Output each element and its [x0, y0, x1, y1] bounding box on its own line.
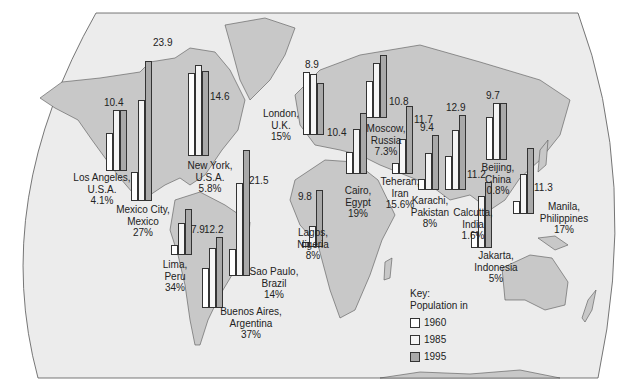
value-label-1995: 21.5: [249, 176, 268, 186]
bar-1960: [303, 72, 310, 135]
city-country: India: [446, 219, 500, 231]
city-label-calcutta: Calcutta, India 1.6%: [446, 207, 500, 242]
city-name: Lagos,: [290, 227, 336, 239]
city-label-manila: Manila, Philippines 17%: [532, 201, 596, 236]
bar-1995: [459, 115, 466, 190]
bar-1985: [195, 65, 202, 156]
city-pct: 7.3%: [360, 146, 412, 158]
city-name: New York,: [180, 160, 240, 172]
bar-1985: [425, 153, 432, 190]
city-country: Peru: [155, 271, 195, 283]
city-name: Manila,: [532, 201, 596, 213]
bar-1960: [513, 201, 520, 214]
bar-1995: [432, 135, 439, 190]
value-label-1995: 10.4: [327, 128, 346, 138]
city-pct: 27%: [108, 227, 178, 239]
bar-1985: [209, 248, 216, 308]
city-pct: 5.8%: [180, 183, 240, 195]
swatch-1985: [410, 335, 420, 345]
bar-1985: [178, 223, 185, 255]
city-name: Cairo,: [338, 185, 378, 197]
value-label-1995: 8.9: [305, 60, 319, 70]
city-pct: 15%: [260, 131, 302, 143]
bar-group: [202, 237, 223, 308]
city-country: Brazil: [244, 278, 304, 290]
city-name: Sao Paulo,: [244, 266, 304, 278]
bar-1960: [392, 163, 399, 174]
legend-year: 1985: [424, 334, 446, 346]
city-name: Mexico City,: [108, 204, 178, 216]
value-label-1995: 11.3: [534, 183, 553, 193]
city-pct: 14%: [244, 289, 304, 301]
city-label-new-york: New York, U.S.A. 5.8%: [180, 160, 240, 195]
city-name: Moscow,: [360, 123, 412, 135]
bar-1985: [373, 63, 380, 118]
city-country: Nigeria: [290, 239, 336, 251]
city-country: Philippines: [532, 213, 596, 225]
bar-1995: [216, 237, 223, 308]
city-name: Beijing,: [474, 162, 522, 174]
bar-1960: [202, 268, 209, 308]
legend-item-1960: 1960: [410, 317, 468, 329]
bar-1960: [106, 133, 113, 171]
swatch-1960: [410, 318, 420, 328]
value-label-1995: 9.4: [420, 123, 434, 133]
city-label-lagos: Lagos, Nigeria 8%: [290, 227, 336, 262]
city-label-buenos-aires: Buenos Aires, Argentina 37%: [218, 306, 284, 341]
bar-1960: [346, 152, 353, 174]
value-label-1995: 9.7: [486, 91, 500, 101]
bar-1985: [353, 129, 360, 174]
bar-1985: [493, 103, 500, 160]
city-country: U.S.A.: [62, 184, 142, 196]
city-country: Russia: [360, 135, 412, 147]
city-name: Lima,: [155, 259, 195, 271]
city-country: Mexico: [108, 216, 178, 228]
city-country: China: [474, 174, 522, 186]
legend-title: Key:: [410, 288, 468, 300]
legend-subtitle: Population in: [410, 300, 468, 312]
city-name: Buenos Aires,: [218, 306, 284, 318]
value-label-1995: 12.9: [446, 103, 465, 113]
city-country: U.S.A.: [180, 172, 240, 184]
bar-group: [106, 110, 127, 171]
city-label-cairo: Cairo, Egypt 19%: [338, 185, 378, 220]
city-name: London,: [260, 108, 302, 120]
value-label-1995: 14.6: [210, 92, 229, 102]
city-label-jakarta: Jakarta, Indonesia 5%: [468, 250, 524, 285]
bar-1985: [310, 74, 317, 135]
bar-1985: [452, 130, 459, 190]
city-country: U.K.: [260, 120, 302, 132]
city-name: Los Angeles,: [62, 172, 142, 184]
bar-1960: [366, 81, 373, 118]
city-pct: 17%: [532, 224, 596, 236]
city-label-london: London, U.K. 15%: [260, 108, 302, 143]
city-pct: 37%: [218, 329, 284, 341]
bar-1960: [229, 249, 236, 276]
bar-group: [486, 103, 507, 160]
city-country: Argentina: [218, 318, 284, 330]
bar-1960: [171, 245, 178, 255]
city-pct: 1.6%: [446, 230, 500, 242]
bar-group: [445, 115, 466, 190]
city-label-lima: Lima, Peru 34%: [155, 259, 195, 294]
city-country: Indonesia: [468, 262, 524, 274]
value-label-1995: 23.9: [153, 38, 172, 48]
legend-item-1995: 1995: [410, 351, 468, 363]
bar-1960: [188, 73, 195, 156]
legend: Key: Population in 1960 1985 1995: [410, 288, 468, 363]
bar-1995: [380, 55, 387, 118]
bar-1985: [236, 183, 243, 276]
city-label-beijing: Beijing, China 0.8%: [474, 162, 522, 197]
bar-1960: [445, 156, 452, 190]
bar-group: [366, 55, 387, 118]
bar-group: [303, 72, 324, 135]
bar-1985: [113, 110, 120, 171]
city-name: Jakarta,: [468, 250, 524, 262]
bar-1995: [120, 110, 127, 171]
bar-1995: [243, 150, 250, 276]
bar-1960: [486, 117, 493, 160]
city-pct: 5%: [468, 273, 524, 285]
value-label-1995: 10.4: [104, 98, 123, 108]
bar-1995: [317, 83, 324, 135]
value-label-1995: 9.8: [298, 192, 312, 202]
